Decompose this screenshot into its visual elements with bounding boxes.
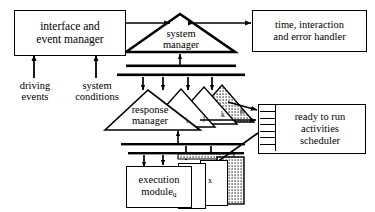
input-driving-events: driving events xyxy=(8,80,62,103)
execution-module-line2-wrap: moduleu xyxy=(139,186,180,199)
interface-event-manager-line2: event manager xyxy=(36,33,103,46)
system-conditions-line2: conditions xyxy=(62,91,132,102)
driving-events-line2: events xyxy=(8,91,62,102)
execution-module-subscript: u xyxy=(173,190,177,199)
execution-upper-bus-bar xyxy=(121,143,245,145)
time-error-handler-line1: time, interaction xyxy=(273,19,345,31)
system-manager-line1: system xyxy=(150,28,212,39)
interface-event-manager-line1: interface and xyxy=(36,20,103,33)
response-manager-instance-j: j xyxy=(203,113,205,122)
scheduler-line3: scheduler xyxy=(295,135,346,147)
driving-events-line1: driving xyxy=(8,80,62,91)
queue-slot[interactable] xyxy=(260,145,275,150)
diagram-canvas: interface and event manager time, intera… xyxy=(0,0,375,212)
node-interface-event-manager[interactable]: interface and event manager xyxy=(14,10,126,56)
response-manager-line1: response xyxy=(118,104,182,115)
execution-module-line2: module xyxy=(141,186,173,197)
response-manager-instance-i: i xyxy=(186,116,188,125)
response-manager-instance-k: k xyxy=(221,110,225,119)
node-system-manager-label: system manager xyxy=(150,28,212,50)
node-time-interaction-error-handler[interactable]: time, interaction and error handler xyxy=(252,10,367,52)
node-response-manager-label: response manager xyxy=(118,104,182,126)
scheduler-line2: activities xyxy=(295,123,346,135)
execution-module-line1: execution xyxy=(139,174,180,186)
response-manager-line2: manager xyxy=(118,115,182,126)
input-system-conditions: system conditions xyxy=(62,80,132,103)
lower-bus-bar xyxy=(117,74,245,77)
upper-bus-bar xyxy=(126,65,236,68)
system-conditions-line1: system xyxy=(62,80,132,91)
system-manager-line2: manager xyxy=(150,39,212,50)
response-manager-instance-n: n xyxy=(240,107,244,116)
time-error-handler-line2: and error handler xyxy=(273,31,345,43)
scheduler-line1: ready to run xyxy=(295,111,346,123)
node-execution-module[interactable]: execution moduleu xyxy=(126,166,192,208)
scheduler-queue[interactable] xyxy=(260,106,275,150)
execution-module-label-x: x xyxy=(208,175,212,185)
scheduler-queue-divider xyxy=(275,105,276,151)
arrows-bus-to-response-managers xyxy=(143,77,212,90)
